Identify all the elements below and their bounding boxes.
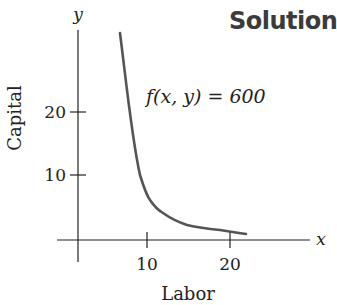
curve-annotation: f(x, y) = 600 [144,85,266,107]
x-tick-label-10: 10 [136,254,158,274]
curve-annotation-text: f(x, y) = 600 [144,85,266,107]
x-tick-label-20: 20 [219,254,241,274]
y-axis-title: Capital [4,85,25,151]
x-axis-title: Labor [161,283,215,304]
level-curve-600 [120,33,246,234]
y-tick-label-10: 10 [44,165,66,185]
y-axis-symbol: y [72,4,83,24]
y-tick-label-20: 20 [44,102,66,122]
x-axis-symbol: x [316,229,326,249]
